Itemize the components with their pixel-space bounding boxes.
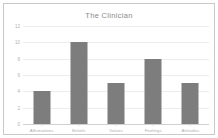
x-axis-tick-label: Feelings [145,128,162,133]
x-axis-tickmark [190,124,191,126]
x-axis-tick-label: Affirmations [30,128,54,133]
y-axis-tick-label: 2 [17,105,20,110]
bar-slot: Feelings [135,26,172,124]
x-axis-tickmark [153,124,154,126]
bar-series: AffirmationsBeliefsValuesFeelingsAttitud… [23,26,209,124]
bar [70,42,87,124]
y-axis-tick-label: 0 [17,122,20,127]
x-axis-tickmark [41,124,42,126]
bar [33,91,50,124]
y-axis-tick-label: 6 [17,73,20,78]
x-axis-tick-label: Values [109,128,122,133]
x-axis-tickmark [78,124,79,126]
bar [145,59,162,124]
chart-frame: The Clinician 024681012 AffirmationsBeli… [3,3,215,135]
bar [182,83,199,124]
bar-slot: Values [97,26,134,124]
bar-slot: Affirmations [23,26,60,124]
y-axis-tick-label: 4 [17,89,20,94]
y-axis-tick-label: 10 [15,40,20,45]
plot-area: 024681012 AffirmationsBeliefsValuesFeeli… [23,26,209,124]
y-axis-tick-label: 12 [15,24,20,29]
x-axis-tick-label: Beliefs [72,128,86,133]
x-axis-tickmark [115,124,116,126]
bar-slot: Attitudes [172,26,209,124]
y-axis-tick-label: 8 [17,56,20,61]
bar [107,83,124,124]
x-axis-tick-label: Attitudes [182,128,200,133]
bar-slot: Beliefs [60,26,97,124]
chart-title: The Clinician [4,11,214,20]
